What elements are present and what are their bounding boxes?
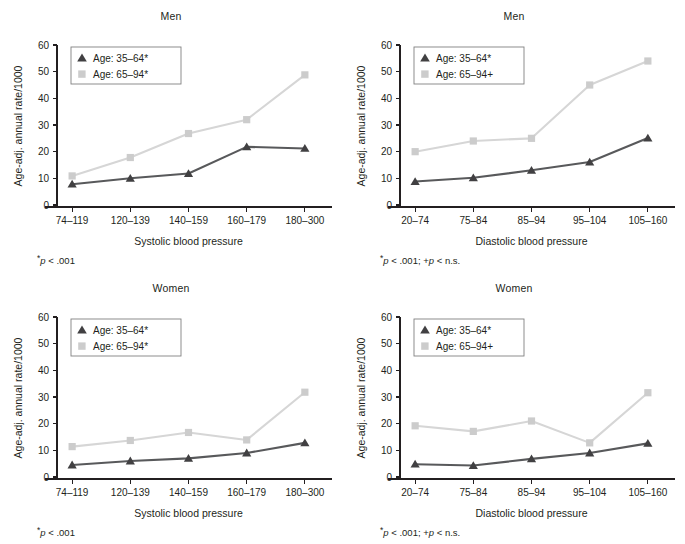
square-marker [421,342,428,349]
y-tick-label: 20 [38,418,50,429]
x-tick-label: 180–300 [285,215,324,226]
legend-label: Age: 35–64* [436,325,491,336]
square-marker [586,439,593,446]
y-tick-label: 60 [381,312,393,323]
square-marker [127,154,134,161]
x-axis-title: Diastolic blood pressure [475,507,587,519]
x-tick-label: 95–104 [573,215,607,226]
x-tick-label: 85–94 [518,215,546,226]
chart-panel-men-diastolic: Men010203040506020–7475–8485–9495–104105… [343,0,685,272]
square-marker [644,57,651,64]
x-tick-label: 105–160 [628,215,667,226]
square-marker [470,137,477,144]
y-tick-label: 60 [38,312,50,323]
square-marker [127,437,134,444]
x-tick-label: 140–159 [169,215,208,226]
x-tick-label: 160–179 [227,215,266,226]
x-tick-label: 160–179 [227,487,266,498]
legend-label: Age: 35–64* [436,53,491,64]
y-tick-label: 50 [38,66,50,77]
x-tick-label: 75–84 [459,487,487,498]
y-tick-label: 10 [381,173,393,184]
square-marker [78,70,85,77]
square-marker [243,116,250,123]
footnote-value: < .001 [46,527,75,538]
panel-footnote: *p < .001 [37,525,75,538]
plot-area: 010203040506020–7475–8485–9495–104105–16… [343,272,685,544]
y-tick-label: 10 [38,173,50,184]
plot-area: 010203040506074–119120–139140–159160–179… [0,272,342,544]
footnote-value-2: < n.s. [434,527,460,538]
square-marker [528,135,535,142]
y-tick-label: 20 [381,418,393,429]
x-tick-label: 120–139 [111,487,150,498]
y-tick-label: 50 [381,66,393,77]
panel-footnote: *p < .001; +p < n.s. [380,253,460,266]
square-marker [69,443,76,450]
chart-panel-men-systolic: Men010203040506074–119120–139140–159160–… [0,0,342,272]
y-tick-label: 60 [38,40,50,51]
footnote-value-2: < n.s. [434,255,460,266]
y-axis-title: Age-adj. annual rate/1000 [355,65,367,186]
legend-label: Age: 65–94* [93,69,148,80]
square-marker [412,422,419,429]
legend-label: Age: 35–64* [93,53,148,64]
square-marker [78,342,85,349]
y-tick-label: 50 [38,338,50,349]
y-tick-label: 40 [381,93,393,104]
y-tick-label: 30 [381,392,393,403]
square-marker [412,148,419,155]
square-marker [301,389,308,396]
series-line-older [72,75,305,176]
series-line-older [72,392,305,446]
x-axis-title: Diastolic blood pressure [475,235,587,247]
x-tick-label: 180–300 [285,487,324,498]
x-tick-label: 85–94 [518,487,546,498]
y-axis-title: Age-adj. annual rate/1000 [12,337,24,458]
x-tick-label: 20–74 [401,487,429,498]
square-marker [528,417,535,424]
x-tick-label: 105–160 [628,487,667,498]
x-axis-title: Systolic blood pressure [134,507,243,519]
figure-root: Men010203040506074–119120–139140–159160–… [0,0,685,544]
y-tick-label: 30 [381,120,393,131]
y-tick-label: 20 [38,146,50,157]
plot-area: 010203040506074–119120–139140–159160–179… [0,0,342,272]
square-marker [421,70,428,77]
chart-panel-women-diastolic: Women010203040506020–7475–8485–9495–1041… [343,272,685,544]
x-tick-label: 140–159 [169,487,208,498]
square-marker [185,429,192,436]
y-tick-label: 0 [386,200,392,211]
y-tick-label: 0 [386,472,392,483]
y-tick-label: 0 [43,200,49,211]
legend-label: Age: 65–94+ [436,341,493,352]
chart-panel-women-systolic: Women010203040506074–119120–139140–15916… [0,272,342,544]
x-tick-label: 20–74 [401,215,429,226]
y-tick-label: 10 [381,445,393,456]
legend-label: Age: 65–94* [93,341,148,352]
y-tick-label: 50 [381,338,393,349]
y-tick-label: 0 [43,472,49,483]
square-marker [644,389,651,396]
y-tick-label: 20 [381,146,393,157]
x-tick-label: 74–119 [56,215,89,226]
x-axis-title: Systolic blood pressure [134,235,243,247]
y-tick-label: 10 [38,445,50,456]
plot-area: 010203040506020–7475–8485–9495–104105–16… [343,0,685,272]
legend-label: Age: 65–94+ [436,69,493,80]
square-marker [185,130,192,137]
square-marker [586,81,593,88]
y-tick-label: 30 [38,392,50,403]
y-tick-label: 60 [381,40,393,51]
panel-footnote: *p < .001 [37,253,75,266]
y-axis-title: Age-adj. annual rate/1000 [355,337,367,458]
square-marker [301,71,308,78]
x-tick-label: 75–84 [459,215,487,226]
footnote-value: < .001; + [389,255,429,266]
legend-label: Age: 35–64* [93,325,148,336]
y-tick-label: 30 [38,120,50,131]
square-marker [69,172,76,179]
footnote-value: < .001 [46,255,75,266]
square-marker [243,436,250,443]
y-tick-label: 40 [38,365,50,376]
